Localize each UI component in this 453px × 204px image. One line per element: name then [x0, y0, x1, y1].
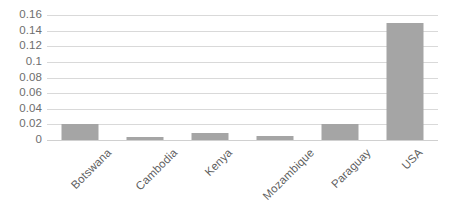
y-tick-label: 0.04 — [19, 103, 42, 115]
bar[interactable] — [257, 136, 294, 140]
x-tick-label: USA — [400, 147, 425, 172]
x-tick-label: Kenya — [203, 147, 235, 179]
y-tick-label: 0.08 — [19, 72, 42, 84]
x-tick-label: Botswana — [69, 147, 113, 191]
bar-slot — [112, 15, 177, 140]
bar-slot — [243, 15, 308, 140]
x-tick-slot: Mozambique — [243, 141, 308, 204]
y-tick-label: 0.16 — [19, 9, 42, 21]
y-axis: 0.160.140.120.10.080.060.040.020 — [0, 15, 42, 140]
x-tick-label: Paraguay — [330, 147, 374, 191]
x-axis: BotswanaCambodiaKenyaMozambiqueParaguayU… — [47, 141, 438, 204]
x-tick-slot: Cambodia — [112, 141, 177, 204]
y-tick-label: 0.14 — [19, 25, 42, 37]
y-tick-label: 0 — [36, 134, 43, 146]
x-tick-slot: Kenya — [177, 141, 242, 204]
bar[interactable] — [61, 124, 98, 140]
y-tick-label: 0.06 — [19, 87, 42, 99]
bar[interactable] — [126, 137, 163, 140]
bar-slot — [308, 15, 373, 140]
y-tick-label: 0.12 — [19, 41, 42, 53]
bar[interactable] — [191, 133, 228, 140]
bar-chart: 0.160.140.120.10.080.060.040.020 Botswan… — [0, 0, 453, 204]
x-tick-label: Cambodia — [134, 147, 180, 193]
bar-slot — [47, 15, 112, 140]
x-tick-slot: USA — [373, 141, 438, 204]
bar-slot — [373, 15, 438, 140]
bar[interactable] — [322, 124, 359, 140]
y-tick-label: 0.1 — [26, 56, 42, 68]
bar[interactable] — [387, 23, 424, 140]
y-tick-label: 0.02 — [19, 119, 42, 131]
x-tick-slot: Paraguay — [308, 141, 373, 204]
bar-slot — [177, 15, 242, 140]
x-tick-slot: Botswana — [47, 141, 112, 204]
bars-layer — [47, 15, 438, 140]
